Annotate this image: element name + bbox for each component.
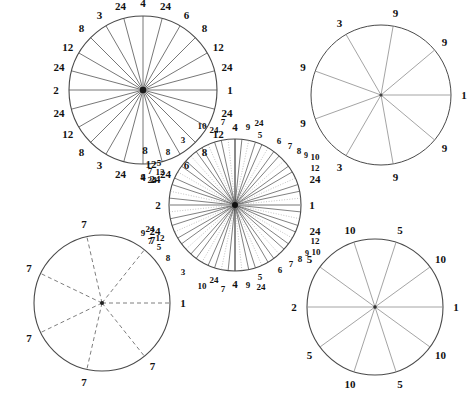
label-mid-tr-12-8: 12 <box>311 164 320 173</box>
top-right-circle-spoke <box>315 71 381 95</box>
bottom-right-circle-hub <box>373 305 377 309</box>
label-mid-br-9-0: 9 <box>246 281 251 290</box>
label-7-7-3: 7 <box>26 262 32 273</box>
label-24-24-1: 24 <box>222 62 233 73</box>
top-right-circle-hub <box>379 93 382 96</box>
label-10-5-8: 5 <box>397 379 403 390</box>
top-left-circle-spoke <box>72 90 143 109</box>
top-left-circle-spoke <box>143 90 214 109</box>
label-10-10-1: 10 <box>435 254 446 265</box>
top-left-circle-spoke <box>143 19 162 90</box>
label-10-2-5: 2 <box>291 302 297 313</box>
middle-circle-spoke <box>235 205 268 262</box>
label-7-7-2: 7 <box>81 219 87 230</box>
top-left-circle-spoke <box>124 90 143 161</box>
label-mid-tr-5-2: 5 <box>258 131 263 140</box>
label-9-9-5: 9 <box>300 118 306 129</box>
middle-circle-spoke <box>235 205 288 244</box>
top-left-circle-spoke <box>143 71 214 90</box>
label-mid-1: 1 <box>309 200 315 211</box>
bottom-left-circle-spoke <box>102 250 144 303</box>
label-mid-br-12-8: 12 <box>311 237 320 246</box>
label-24-4-6: 4 <box>140 0 146 9</box>
label-mid-tl-10-2: 10 <box>198 122 207 131</box>
label-10-10-7: 10 <box>344 379 355 390</box>
label-mid-br-24-2: 24 <box>257 283 266 292</box>
bottom-left-circle-hub <box>100 301 104 305</box>
label-mid-bl-8-4: 8 <box>166 254 171 263</box>
label-mid-tl-8-4: 8 <box>166 148 171 157</box>
label-mid-tl-24-1: 24 <box>210 126 219 135</box>
bottom-left-circle-spoke <box>41 274 102 303</box>
label-24-12-14: 12 <box>62 128 73 139</box>
label-10-1-0: 1 <box>453 302 459 313</box>
label-mid-br-6-3: 6 <box>278 266 283 275</box>
label-mid-tr-7-4: 7 <box>288 142 293 151</box>
label-mid-tr-24-1: 24 <box>255 119 264 128</box>
top-left-circle-spoke <box>143 90 195 142</box>
label-mid-tl-8-12: 8 <box>142 145 148 156</box>
bottom-right-circle-spoke <box>354 307 375 372</box>
top-right-circle-spoke <box>346 34 381 95</box>
label-10-10-3: 10 <box>344 224 355 235</box>
label-9-9-1: 9 <box>442 36 448 47</box>
label-9-9-2: 9 <box>393 8 399 19</box>
middle-circle-spoke <box>235 145 262 205</box>
bottom-right-circle-spoke <box>320 307 375 347</box>
top-right-circle-spoke <box>346 95 381 156</box>
middle-circle-spoke <box>178 205 235 238</box>
bottom-right-circle-spoke <box>375 267 430 307</box>
label-9-9-7: 9 <box>393 171 399 182</box>
bottom-left-circle-spoke <box>41 303 102 332</box>
top-left-circle-spoke <box>124 19 143 90</box>
label-mid-bl-24-1: 24 <box>210 276 219 285</box>
label-7-7-6: 7 <box>150 361 156 372</box>
label-mid-br-5-1: 5 <box>258 273 263 282</box>
label-24-8-3: 8 <box>202 23 208 34</box>
top-left-circle-spoke <box>72 71 143 90</box>
label-mid-4-bottom: 4 <box>232 279 238 290</box>
middle-circle-spoke <box>196 205 235 258</box>
label-mid-br-24-9: 24 <box>310 226 321 237</box>
bottom-left-circle-spoke <box>87 237 102 303</box>
label-9-1-0: 1 <box>461 90 467 101</box>
top-left-circle-spoke <box>79 90 143 127</box>
label-mid-tr-9-0: 9 <box>246 123 251 132</box>
bottom-left-circle-spoke <box>102 303 144 356</box>
label-mid-br-8-5: 8 <box>298 255 303 264</box>
label-mid-tl-3-3: 3 <box>181 136 186 145</box>
label-24-24-13: 24 <box>53 107 64 118</box>
label-24-6-20: 6 <box>184 160 190 171</box>
label-mid-2: 2 <box>155 200 161 211</box>
bottom-right-circle-spoke <box>375 307 430 347</box>
top-left-circle-spoke <box>143 26 180 90</box>
top-right-circle-spoke <box>381 50 435 95</box>
label-24-8-9: 8 <box>79 23 85 34</box>
top-right-circle-spoke <box>381 26 393 95</box>
label-7-1-0: 1 <box>180 298 186 309</box>
label-mid-bl-10-2: 10 <box>198 282 207 291</box>
label-24-8-15: 8 <box>79 146 85 157</box>
top-left-circle-spoke <box>106 90 143 154</box>
label-10-5-4: 5 <box>307 254 313 265</box>
middle-circle-spoke <box>235 178 295 205</box>
label-mid-bl-3-3: 3 <box>181 268 186 277</box>
label-10-5-6: 5 <box>307 349 313 360</box>
label-mid-tr-9-6: 9 <box>304 152 308 160</box>
label-9-9-8: 9 <box>442 143 448 154</box>
top-left-circle-spoke <box>143 38 195 90</box>
top-left-circle-hub <box>140 87 146 93</box>
label-9-9-4: 9 <box>300 61 306 72</box>
bottom-right-circle-spoke <box>320 267 375 307</box>
top-right-circle-spoke <box>381 95 393 164</box>
middle-circle-spoke <box>208 205 235 265</box>
label-24-24-5: 24 <box>160 0 171 11</box>
bottom-right-circle-spoke <box>375 307 396 372</box>
label-24-1-0: 1 <box>227 85 233 96</box>
label-mid-4-top: 4 <box>232 122 238 133</box>
label-7-7-5: 7 <box>81 376 87 387</box>
top-right-circle-spoke <box>315 95 381 119</box>
label-24-24-11: 24 <box>53 62 64 73</box>
label-mid-bl-5-5: 5 <box>157 243 162 252</box>
label-mid-tl-9-8: 9 <box>141 173 146 182</box>
